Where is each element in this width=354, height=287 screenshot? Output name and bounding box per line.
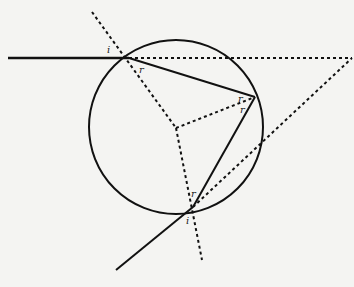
diagram-canvas: i r r r r i [0, 0, 354, 287]
label-exit-incident: i [186, 215, 189, 226]
ray-diagram: i r r r r i [0, 0, 354, 287]
label-entry-incident: i [107, 44, 110, 55]
faded-background-text [0, 0, 354, 287]
